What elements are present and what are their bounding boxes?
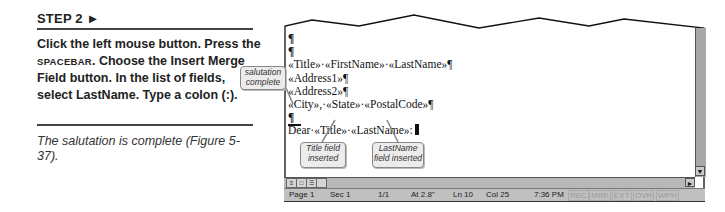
status-ext[interactable]: EXT (612, 190, 632, 201)
status-line: Ln 10 (453, 189, 473, 201)
status-rec[interactable]: REC (568, 190, 589, 201)
normal-view-icon: ≡ (290, 180, 294, 186)
status-pages: 1/1 (378, 189, 389, 201)
status-column: Col 25 (486, 189, 509, 201)
outline-view-icon: ☰ (309, 180, 314, 186)
page-layout-icon: □ (300, 180, 304, 186)
status-bar: Page 1 Sec 1 1/1 At 2.8" Ln 10 Col 25 7:… (284, 188, 705, 202)
status-wph[interactable]: WPH (656, 190, 679, 201)
status-at: At 2.8" (411, 189, 435, 201)
arrow-right-icon: ► (687, 180, 694, 187)
status-time: 7:36 PM (534, 189, 564, 201)
status-ovr[interactable]: OVR (633, 190, 654, 201)
scroll-left-button[interactable] (316, 178, 327, 188)
status-page: Page 1 (289, 189, 314, 201)
status-mrk[interactable]: MRK (589, 190, 611, 201)
scroll-right-button[interactable]: ► (685, 178, 695, 187)
horizontal-scrollbar[interactable] (284, 177, 695, 188)
status-section: Sec 1 (330, 189, 350, 201)
